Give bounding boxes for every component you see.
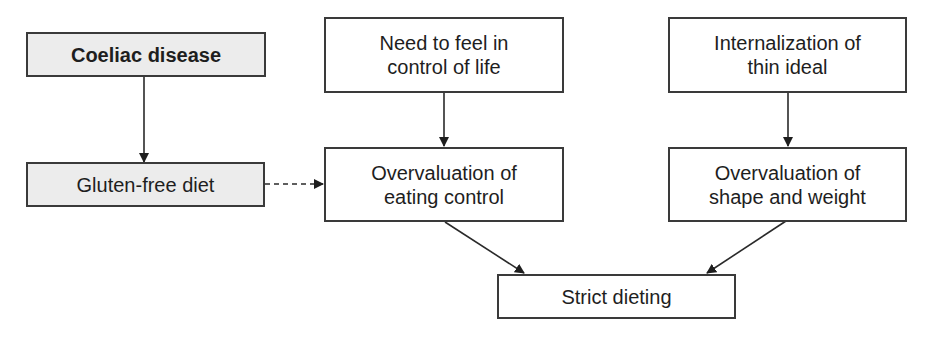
arrow-shape-weight-to-strict-dieting	[707, 221, 786, 273]
node-internalization-thin-ideal: Internalization of thin ideal	[668, 17, 907, 93]
arrow-eating-control-to-strict-dieting	[445, 222, 524, 273]
node-label: Need to feel in control of life	[380, 31, 509, 79]
node-label: Overvaluation of eating control	[371, 161, 517, 209]
node-overvaluation-shape-weight: Overvaluation of shape and weight	[668, 147, 907, 222]
node-label: Internalization of thin ideal	[714, 31, 861, 79]
node-overvaluation-eating-control: Overvaluation of eating control	[324, 147, 564, 222]
node-need-control-of-life: Need to feel in control of life	[324, 17, 564, 93]
node-label: Overvaluation of shape and weight	[709, 161, 866, 209]
node-gluten-free-diet: Gluten-free diet	[26, 162, 265, 207]
node-label: Strict dieting	[561, 285, 671, 309]
node-label: Gluten-free diet	[77, 173, 215, 197]
node-coeliac-disease: Coeliac disease	[26, 32, 266, 77]
node-label: Coeliac disease	[71, 43, 221, 67]
node-strict-dieting: Strict dieting	[497, 274, 736, 319]
